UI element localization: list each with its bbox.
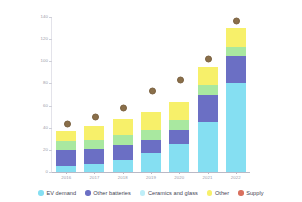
y-axis-tick-label: 0 bbox=[22, 170, 48, 174]
y-axis-tick bbox=[49, 39, 52, 40]
bar-segment[interactable] bbox=[113, 145, 133, 159]
supply-marker[interactable] bbox=[149, 87, 156, 94]
chart-title bbox=[0, 0, 302, 4]
bar-segment[interactable] bbox=[56, 141, 76, 150]
y-axis-tick-label: 140 bbox=[22, 15, 48, 19]
y-axis-tick-label: 80 bbox=[22, 81, 48, 85]
bar-group[interactable]: 2021 bbox=[198, 17, 218, 172]
supply-marker[interactable] bbox=[120, 105, 127, 112]
bar-segment[interactable] bbox=[84, 140, 104, 149]
chart-container: 0204060801001201402016201720182019202020… bbox=[0, 0, 302, 202]
y-axis-tick bbox=[49, 17, 52, 18]
bar-segment[interactable] bbox=[198, 67, 218, 85]
x-axis-tick bbox=[123, 172, 124, 174]
bar-segment[interactable] bbox=[198, 95, 218, 123]
bar-segment[interactable] bbox=[113, 119, 133, 136]
supply-marker[interactable] bbox=[64, 120, 71, 127]
supply-marker[interactable] bbox=[177, 76, 184, 83]
bar-segment[interactable] bbox=[169, 102, 189, 120]
bar-segment[interactable] bbox=[113, 135, 133, 145]
bar-segment[interactable] bbox=[113, 160, 133, 172]
bar-segment[interactable] bbox=[169, 130, 189, 144]
bar-segment[interactable] bbox=[226, 47, 246, 56]
bar-group[interactable]: 2017 bbox=[84, 17, 104, 172]
supply-marker[interactable] bbox=[92, 114, 99, 121]
plot-area: 0204060801001201402016201720182019202020… bbox=[52, 17, 250, 172]
bar-segment[interactable] bbox=[226, 56, 246, 84]
bar-segment[interactable] bbox=[141, 140, 161, 153]
x-axis-tick-label: 2022 bbox=[219, 175, 253, 180]
y-axis-tick-label: 120 bbox=[22, 37, 48, 41]
y-axis-tick bbox=[49, 128, 52, 129]
x-axis-tick bbox=[208, 172, 209, 174]
bar-group[interactable]: 2020 bbox=[169, 17, 189, 172]
bar-segment[interactable] bbox=[56, 150, 76, 167]
bar-segment[interactable] bbox=[169, 144, 189, 172]
bar-segment[interactable] bbox=[141, 112, 161, 130]
legend-swatch-icon bbox=[38, 190, 44, 196]
legend-item[interactable]: EV demand bbox=[38, 190, 76, 196]
legend-item-label: EV demand bbox=[46, 190, 76, 196]
bar-segment[interactable] bbox=[141, 153, 161, 172]
bar-segment[interactable] bbox=[226, 28, 246, 47]
x-axis-tick bbox=[66, 172, 67, 174]
legend-item-label: Ceramics and glass bbox=[148, 190, 198, 196]
y-axis-tick bbox=[49, 61, 52, 62]
y-axis-tick-label: 60 bbox=[22, 103, 48, 107]
bar-group[interactable]: 2022 bbox=[226, 17, 246, 172]
y-axis-tick bbox=[49, 83, 52, 84]
bar-segment[interactable] bbox=[141, 130, 161, 140]
legend-swatch-icon bbox=[140, 190, 146, 196]
legend-item[interactable]: Other bbox=[207, 190, 229, 196]
y-axis-tick-label: 40 bbox=[22, 126, 48, 130]
supply-marker[interactable] bbox=[205, 55, 212, 62]
legend-item[interactable]: Other batteries bbox=[85, 190, 131, 196]
bar-group[interactable]: 2016 bbox=[56, 17, 76, 172]
bar-segment[interactable] bbox=[226, 83, 246, 172]
legend-item-label: Other batteries bbox=[93, 190, 131, 196]
supply-marker[interactable] bbox=[233, 17, 240, 24]
x-axis-tick bbox=[236, 172, 237, 174]
bar-segment[interactable] bbox=[84, 126, 104, 140]
bar-segment[interactable] bbox=[198, 85, 218, 95]
y-axis-tick bbox=[49, 106, 52, 107]
bar-group[interactable]: 2019 bbox=[141, 17, 161, 172]
legend-item[interactable]: Ceramics and glass bbox=[140, 190, 198, 196]
x-axis-tick bbox=[179, 172, 180, 174]
bar-segment[interactable] bbox=[56, 131, 76, 141]
legend-swatch-icon bbox=[238, 190, 244, 196]
legend-item-label: Other bbox=[215, 190, 229, 196]
legend-swatch-icon bbox=[207, 190, 213, 196]
x-axis-tick bbox=[151, 172, 152, 174]
y-axis-tick-label: 20 bbox=[22, 148, 48, 152]
bar-group[interactable]: 2018 bbox=[113, 17, 133, 172]
y-axis-tick bbox=[49, 172, 52, 173]
y-axis-tick-label: 100 bbox=[22, 59, 48, 63]
legend-swatch-icon bbox=[85, 190, 91, 196]
chart-legend: EV demandOther batteriesCeramics and gla… bbox=[0, 184, 302, 202]
legend-item-label: Supply bbox=[246, 190, 263, 196]
bar-segment[interactable] bbox=[198, 122, 218, 172]
y-axis-tick bbox=[49, 150, 52, 151]
x-axis-tick bbox=[94, 172, 95, 174]
legend-item[interactable]: Supply bbox=[238, 190, 263, 196]
bar-segment[interactable] bbox=[84, 149, 104, 165]
bar-segment[interactable] bbox=[84, 164, 104, 172]
bar-segment[interactable] bbox=[169, 120, 189, 130]
